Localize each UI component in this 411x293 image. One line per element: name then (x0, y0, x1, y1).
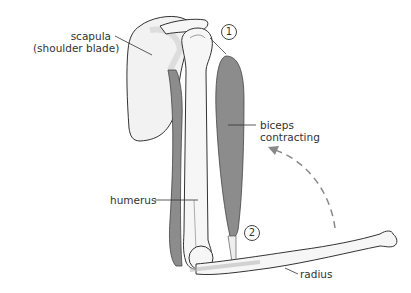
label-radius: radius (300, 268, 332, 280)
humerus-bone (182, 28, 213, 270)
label-biceps-line1: biceps (260, 119, 294, 131)
motion-arrow (275, 150, 335, 228)
label-scapula: scapula (shoulder blade) (33, 30, 111, 54)
marker-2: 2 (244, 225, 260, 241)
biceps-muscle (216, 56, 244, 238)
label-scapula-line1: scapula (71, 30, 111, 42)
label-biceps: biceps contracting (260, 119, 320, 143)
label-scapula-line2: (shoulder blade) (33, 42, 119, 54)
label-biceps-line2: contracting (260, 131, 320, 143)
label-humerus: humerus (110, 194, 156, 206)
radius-bone (196, 231, 397, 275)
marker-1: 1 (221, 24, 237, 40)
